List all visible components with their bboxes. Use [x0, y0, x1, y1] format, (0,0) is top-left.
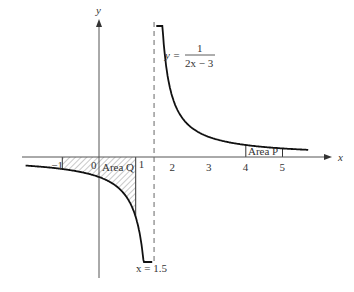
equation-label: y = 1 2x − 3 — [164, 42, 215, 69]
asymptote-label: x = 1.5 — [136, 262, 167, 274]
curve-right-branch — [156, 26, 308, 150]
x-axis-arrow-icon — [324, 154, 332, 160]
equation-numerator: 1 — [197, 42, 203, 54]
x-tick-label: 4 — [243, 161, 249, 173]
area-q-label: Area Q — [102, 161, 134, 173]
x-tick-label: 3 — [206, 161, 212, 173]
x-tick-label: 2 — [169, 161, 175, 173]
x-axis-label: x — [337, 151, 343, 163]
x-tick-label: 0 — [91, 159, 97, 171]
area-p-label: Area P — [248, 145, 278, 157]
equation-denominator: 2x − 3 — [185, 57, 214, 69]
x-tick-label: 1 — [139, 158, 145, 170]
chart: x y x = 1.5 −1012345 Area Q Area P y = 1… — [0, 0, 354, 292]
y-axis-label: y — [95, 4, 101, 16]
equation-lhs: y = — [164, 49, 180, 61]
x-tick-label: 5 — [280, 161, 286, 173]
x-tick-label: −1 — [51, 159, 63, 171]
y-axis-arrow-icon — [96, 19, 102, 27]
